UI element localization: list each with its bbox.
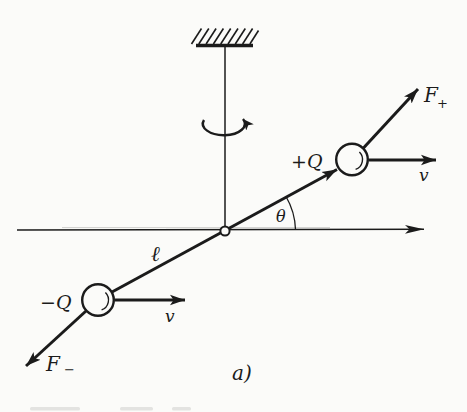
angle-arc [286, 197, 296, 230]
force-positive-arrow [363, 89, 418, 149]
figure-caption: a) [232, 361, 252, 385]
angle-label: θ [276, 207, 286, 226]
figure-canvas: F + +Q v θ ℓ −Q v F − a) [0, 0, 467, 412]
charge-negative-ball [82, 284, 114, 316]
force-positive-subscript: + [437, 96, 448, 111]
ceiling-hatch-lines [192, 29, 259, 45]
velocity-negative-label: v [165, 306, 175, 326]
velocity-positive-label: v [419, 165, 429, 185]
force-negative-subscript: − [64, 362, 75, 377]
charge-positive-ball [336, 144, 368, 176]
charge-negative-label: −Q [40, 291, 72, 313]
scan-smudges [30, 407, 191, 411]
charge-positive-label: +Q [291, 150, 323, 172]
force-negative-label: F [45, 352, 61, 376]
rotation-direction-arrow [203, 119, 245, 135]
dipole-rotation-diagram: F + +Q v θ ℓ −Q v F − a) [0, 0, 467, 412]
pivot-circle [220, 226, 229, 235]
rod-length-label: ℓ [151, 242, 160, 266]
ceiling-support [192, 29, 259, 46]
